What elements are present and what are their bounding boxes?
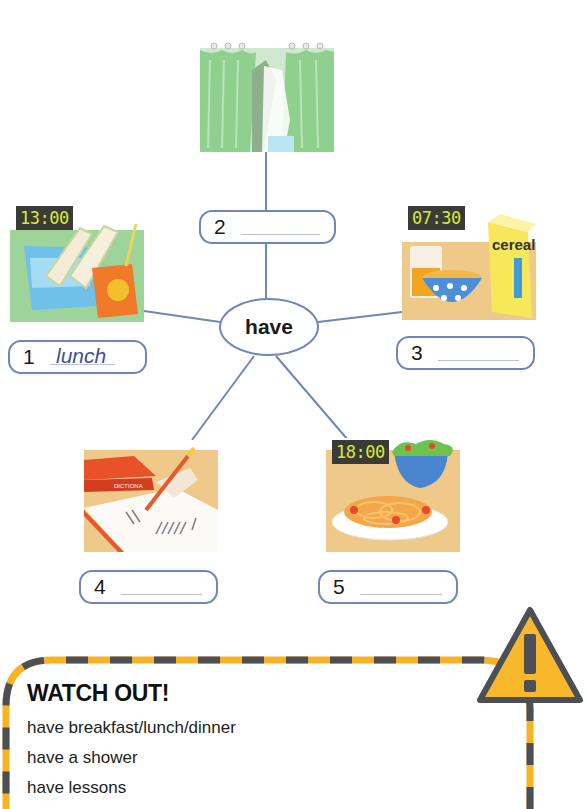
watch-out-line-2: have a shower <box>27 748 138 768</box>
watch-out-title: WATCH OUT! <box>27 680 169 707</box>
watch-out-line-1: have breakfast/lunch/dinner <box>27 718 236 738</box>
warning-icon <box>474 604 586 708</box>
watch-out-line-3: have lessons <box>27 778 126 798</box>
